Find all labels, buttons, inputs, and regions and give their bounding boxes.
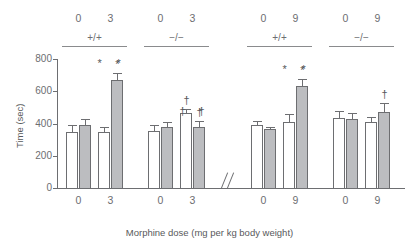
bar xyxy=(193,127,205,189)
x-tick-label: 0 xyxy=(151,194,171,206)
bar xyxy=(79,125,91,189)
error-bar-line xyxy=(384,103,385,112)
genotype-bracket xyxy=(329,46,394,47)
error-bar-cap xyxy=(348,113,357,114)
genotype-label: +/+ xyxy=(52,32,137,43)
x-tick-label: 9 xyxy=(368,194,388,206)
x-tick-label: 0 xyxy=(69,194,89,206)
error-bar-cap xyxy=(285,114,294,115)
top-dose-label: 3 xyxy=(101,12,121,24)
bar xyxy=(251,125,263,189)
y-axis-line xyxy=(57,59,58,189)
error-bar-cap xyxy=(163,122,172,123)
error-bar-cap xyxy=(81,119,90,120)
significance-marker: * xyxy=(117,58,121,69)
error-bar-line xyxy=(117,73,118,81)
x-tick-label: 0 xyxy=(336,194,356,206)
genotype-bracket xyxy=(144,46,209,47)
bar xyxy=(296,86,308,189)
genotype-label: +/+ xyxy=(237,32,322,43)
bar xyxy=(365,122,377,189)
bar xyxy=(66,132,78,189)
bar xyxy=(98,132,110,189)
error-bar-cap xyxy=(68,125,77,126)
significance-marker: * xyxy=(302,64,306,75)
x-tick-label: 0 xyxy=(254,194,274,206)
error-bar-cap xyxy=(298,79,307,80)
bar xyxy=(333,118,345,189)
genotype-bracket xyxy=(62,46,127,47)
bar xyxy=(264,129,276,189)
y-tick-label: 800 xyxy=(18,53,52,64)
genotype-label: −/− xyxy=(319,32,404,43)
genotype-bracket xyxy=(247,46,312,47)
error-bar-cap xyxy=(253,121,262,122)
top-dose-label: 3 xyxy=(183,12,203,24)
bar xyxy=(148,131,160,189)
significance-marker: † xyxy=(182,95,191,106)
significance-marker: * xyxy=(98,58,102,69)
x-tick-label: 3 xyxy=(183,194,203,206)
y-tick-mark xyxy=(53,91,57,92)
error-bar-line xyxy=(302,79,303,87)
error-bar-cap xyxy=(100,127,109,128)
y-tick-mark xyxy=(53,156,57,157)
significance-marker: † xyxy=(180,106,186,117)
y-tick-label: 200 xyxy=(18,150,52,161)
error-bar-cap xyxy=(150,125,159,126)
bar xyxy=(378,112,390,189)
bar xyxy=(283,122,295,189)
bar xyxy=(111,80,123,189)
top-dose-label: 9 xyxy=(368,12,388,24)
y-tick-label: 600 xyxy=(18,85,52,96)
genotype-label: −/− xyxy=(134,32,219,43)
error-bar-cap xyxy=(266,127,275,128)
top-dose-label: 0 xyxy=(69,12,89,24)
y-axis-title: Time (sec) xyxy=(14,103,25,148)
bar xyxy=(346,119,358,189)
bar xyxy=(161,127,173,189)
x-axis-title: Morphine dose (mg per kg body weight) xyxy=(0,227,419,238)
bar xyxy=(180,113,192,189)
top-dose-label: 0 xyxy=(254,12,274,24)
error-bar-cap xyxy=(113,73,122,74)
top-dose-label: 0 xyxy=(151,12,171,24)
y-tick-mark xyxy=(53,59,57,60)
x-tick-label: 9 xyxy=(286,194,306,206)
top-dose-label: 0 xyxy=(336,12,356,24)
y-tick-mark xyxy=(53,188,57,189)
error-bar-cap xyxy=(380,103,389,104)
axis-break-mark xyxy=(227,172,234,188)
figure-panel: 0200400600800Time (sec)Morphine dose (mg… xyxy=(0,0,419,247)
significance-marker: * xyxy=(283,64,287,75)
error-bar-cap xyxy=(195,121,204,122)
significance-marker: † xyxy=(380,89,389,100)
y-tick-label: 0 xyxy=(18,182,52,193)
top-dose-label: 9 xyxy=(286,12,306,24)
error-bar-cap xyxy=(335,111,344,112)
error-bar-line xyxy=(289,114,290,121)
y-tick-mark xyxy=(53,124,57,125)
significance-marker: † xyxy=(199,106,205,117)
error-bar-cap xyxy=(367,117,376,118)
x-tick-label: 3 xyxy=(101,194,121,206)
